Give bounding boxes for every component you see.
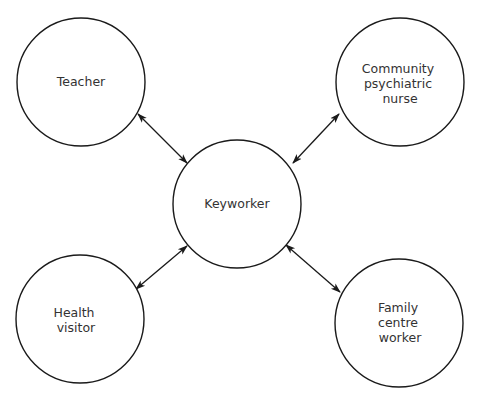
node-health-visitor: Health visitor <box>16 255 144 383</box>
node-label-line: Teacher <box>56 74 106 89</box>
node-label-line: worker <box>379 330 422 345</box>
edge-family-centre-worker-keyworker <box>286 245 340 292</box>
edge-community-psychiatric-nurse-keyworker <box>293 114 339 163</box>
node-teacher: Teacher <box>17 18 145 146</box>
node-community-psychiatric-nurse: Community psychiatric nurse <box>336 18 464 146</box>
node-label-line: visitor <box>57 320 96 335</box>
node-label: Keyworker <box>204 196 270 211</box>
keyworker-network-diagram: Teacher Community psychiatric nurse Keyw… <box>0 0 479 399</box>
node-label-line: Community <box>362 61 435 76</box>
node-label-line: centre <box>378 315 418 330</box>
edge-teacher-keyworker <box>138 114 187 163</box>
node-label-line: nurse <box>382 91 417 106</box>
node-keyworker: Keyworker <box>173 140 301 268</box>
node-label: Health visitor <box>53 305 98 335</box>
node-label: Family centre worker <box>378 300 422 345</box>
node-label: Teacher <box>56 74 106 89</box>
node-label-line: Family <box>378 300 419 315</box>
node-family-centre-worker: Family centre worker <box>335 259 463 387</box>
edge-health-visitor-keyworker <box>136 246 187 289</box>
node-label-line: psychiatric <box>364 76 432 91</box>
node-label-line: Health <box>53 305 94 320</box>
node-label-line: Keyworker <box>204 196 270 211</box>
